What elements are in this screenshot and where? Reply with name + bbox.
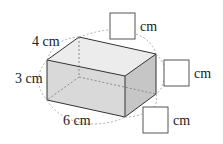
depth-label: 4 cm (32, 34, 60, 49)
answer-box-top[interactable] (110, 13, 135, 39)
unit-label-top: cm (140, 19, 157, 34)
prism-svg: 4 cm 3 cm 6 cm cm cm cm (0, 0, 223, 144)
height-label: 3 cm (15, 71, 43, 86)
answer-box-bottom[interactable] (143, 107, 168, 133)
answer-box-right[interactable] (164, 60, 189, 86)
unit-label-bottom: cm (173, 113, 190, 128)
unit-label-right: cm (194, 66, 211, 81)
width-label: 6 cm (63, 113, 91, 128)
prism-diagram: 4 cm 3 cm 6 cm cm cm cm (0, 0, 223, 144)
